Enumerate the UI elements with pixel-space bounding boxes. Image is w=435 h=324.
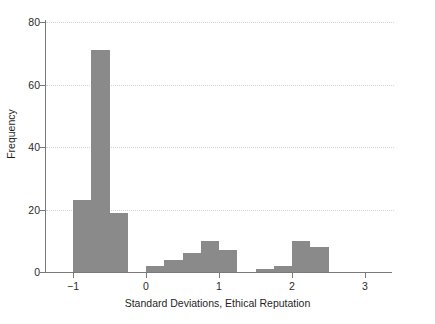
y-tick-label: 20 bbox=[4, 205, 40, 215]
y-tick-mark bbox=[40, 147, 45, 148]
x-tick-label: 2 bbox=[277, 280, 307, 292]
gridline bbox=[46, 22, 394, 23]
y-tick-label: 80 bbox=[4, 17, 40, 27]
x-tick-mark bbox=[219, 273, 220, 278]
x-tick-mark bbox=[292, 273, 293, 278]
histogram-bar bbox=[73, 200, 91, 272]
y-axis-line bbox=[45, 20, 46, 273]
x-tick-mark bbox=[73, 273, 74, 278]
histogram-bar bbox=[164, 260, 182, 273]
x-tick-mark bbox=[365, 273, 366, 278]
histogram-bar bbox=[310, 247, 328, 272]
histogram-bar bbox=[110, 213, 128, 272]
histogram-bar bbox=[219, 250, 237, 272]
x-tick-label: 1 bbox=[204, 280, 234, 292]
histogram-bar bbox=[201, 241, 219, 272]
y-tick-mark bbox=[40, 85, 45, 86]
histogram-bar bbox=[292, 241, 310, 272]
y-tick-label: 0 bbox=[4, 267, 40, 277]
x-tick-label: −1 bbox=[58, 280, 88, 292]
y-axis-title: Frequency bbox=[5, 79, 17, 189]
x-axis-title: Standard Deviations, Ethical Reputation bbox=[0, 297, 435, 309]
histogram-bar bbox=[91, 50, 109, 272]
histogram-bar bbox=[183, 253, 201, 272]
y-tick-mark bbox=[40, 210, 45, 211]
x-tick-label: 0 bbox=[131, 280, 161, 292]
y-tick-mark bbox=[40, 22, 45, 23]
y-tick-mark bbox=[40, 272, 45, 273]
x-tick-label: 3 bbox=[350, 280, 380, 292]
plot-area bbox=[46, 20, 392, 272]
x-tick-mark bbox=[146, 273, 147, 278]
histogram-chart: 020406080 −10123 Frequency Standard Devi… bbox=[0, 0, 435, 324]
